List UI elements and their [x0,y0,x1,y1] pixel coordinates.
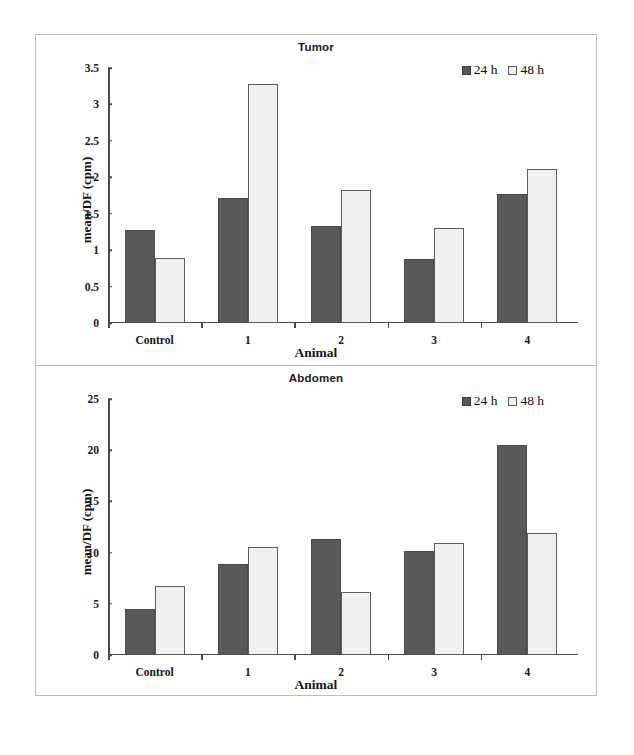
bar-48h-1 [248,547,278,655]
y-tick-label: 3.5 [85,62,108,74]
bar-48h-3 [434,228,464,323]
bar-24h-4 [497,445,527,655]
plot-area-abdomen: mean/DF (cpm) 0510152025 Control1234 Ani… [36,366,596,697]
y-tick-label: 0 [93,649,108,661]
bar-48h-control [155,586,185,655]
bar-group: 3 [388,68,481,323]
chart-panel-tumor: Tumor 24 h 48 h mean/DF (cpm) 00.511.522… [36,35,596,366]
bar-24h-3 [404,551,434,655]
y-tick-label: 10 [88,547,109,559]
plot-area-tumor: mean/DF (cpm) 00.511.522.533.5 Control12… [36,35,596,365]
axes-abdomen: 0510152025 Control1234 [108,399,574,655]
y-tick-label: 3 [93,98,108,110]
bar-24h-1 [218,564,248,655]
bar-48h-2 [341,592,371,655]
bars-tumor: Control1234 [108,68,574,323]
axes-tumor: 00.511.522.533.5 Control1234 [108,68,574,323]
x-axis-label-abdomen: Animal [36,677,596,693]
figure-page: Tumor 24 h 48 h mean/DF (cpm) 00.511.522… [0,0,634,755]
bar-group: 4 [481,399,574,655]
chart-panel-abdomen: Abdomen 24 h 48 h mean/DF (cpm) 05101520… [36,366,596,697]
x-tick-mark [108,655,110,660]
bar-24h-2 [311,539,341,655]
y-tick-label: 20 [88,444,109,456]
x-tick-mark [388,655,390,660]
y-tick-label: 0.5 [85,281,108,293]
x-tick-mark [201,655,203,660]
bar-group: 3 [388,399,481,655]
bar-group: Control [108,68,201,323]
bar-group: 1 [201,68,294,323]
y-axis-label-tumor: mean/DF (cpm) [79,157,95,244]
bar-48h-4 [527,169,557,323]
bar-24h-1 [218,198,248,323]
bars-abdomen: Control1234 [108,399,574,655]
y-tick-label: 0 [93,317,108,329]
x-tick-mark [294,655,296,660]
bar-48h-3 [434,543,464,655]
y-tick-label: 2 [93,171,108,183]
y-tick-label: 5 [93,598,108,610]
bar-24h-control [125,230,155,323]
bar-48h-4 [527,533,557,655]
bar-group: 2 [294,68,387,323]
bar-24h-3 [404,259,434,323]
y-tick-label: 1.5 [85,208,108,220]
bar-24h-2 [311,226,341,323]
x-tick-mark [481,655,483,660]
bar-48h-2 [341,190,371,323]
bar-group: 1 [201,399,294,655]
bar-24h-4 [497,194,527,323]
bar-group: 2 [294,399,387,655]
bar-48h-1 [248,84,278,323]
x-tick-mark [201,323,203,328]
x-tick-mark [108,323,110,328]
x-tick-mark [388,323,390,328]
figure-frame: Tumor 24 h 48 h mean/DF (cpm) 00.511.522… [35,34,597,696]
y-tick-label: 1 [93,244,108,256]
bar-group: 4 [481,68,574,323]
x-axis-label-tumor: Animal [36,345,596,361]
x-tick-mark [481,323,483,328]
y-tick-label: 2.5 [85,135,108,147]
x-tick-mark [294,323,296,328]
y-tick-label: 15 [88,495,109,507]
bar-group: Control [108,399,201,655]
y-tick-label: 25 [88,393,109,405]
bar-48h-control [155,258,185,323]
bar-24h-control [125,609,155,655]
